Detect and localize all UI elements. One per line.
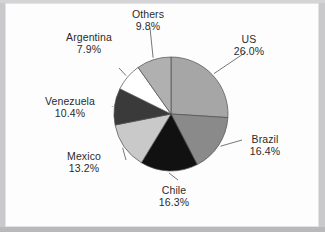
slice-label-value: 13.2% [44, 162, 124, 174]
pie-slices [114, 57, 228, 171]
slice-label-value: 9.8% [113, 20, 183, 32]
slice-label-value: 10.4% [28, 107, 112, 119]
slice-label-name: Venezuela [28, 95, 112, 107]
slice-label-us: US 26.0% [214, 33, 284, 57]
slice-label-value: 16.4% [228, 145, 302, 157]
slice-label-name: Argentina [48, 31, 130, 43]
chart-area: US 26.0% Brazil 16.4% Chile 16.3% Mexico… [0, 0, 325, 232]
slice-label-name: Chile [138, 184, 210, 196]
slice-label-chile: Chile 16.3% [138, 184, 210, 208]
slice-label-others: Others 9.8% [113, 8, 183, 32]
leader-line-others [150, 28, 153, 58]
slice-label-brazil: Brazil 16.4% [228, 133, 302, 157]
slice-label-name: US [214, 33, 284, 45]
slice-label-value: 7.9% [48, 43, 130, 55]
slice-label-name: Others [113, 8, 183, 20]
leader-line-venezuela [112, 106, 113, 107]
slice-label-venezuela: Venezuela 10.4% [28, 95, 112, 119]
slice-label-argentina: Argentina 7.9% [48, 31, 130, 55]
slice-label-name: Brazil [228, 133, 302, 145]
slice-label-value: 26.0% [214, 45, 284, 57]
leader-line-chile [169, 173, 178, 180]
slice-label-name: Mexico [44, 150, 124, 162]
slice-label-value: 16.3% [138, 196, 210, 208]
pie-chart-screenshot: US 26.0% Brazil 16.4% Chile 16.3% Mexico… [0, 0, 325, 232]
slice-label-mexico: Mexico 13.2% [44, 150, 124, 174]
pie-slice-us[interactable] [171, 57, 228, 118]
leader-line-argentina [119, 68, 126, 76]
